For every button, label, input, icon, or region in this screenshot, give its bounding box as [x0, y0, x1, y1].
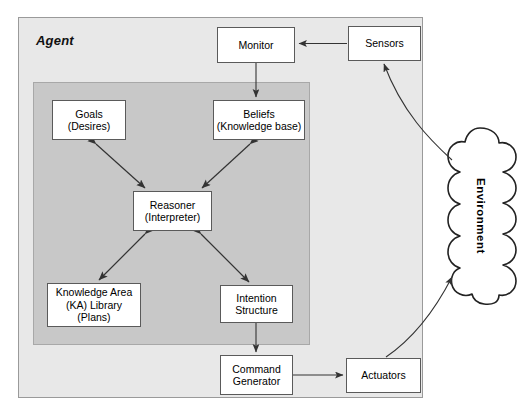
node-goals-line-0: Goals	[75, 108, 102, 121]
node-reasoner[interactable]: Reasoner (Interpreter)	[133, 191, 212, 231]
node-command-line-1: Generator	[233, 375, 280, 388]
node-monitor[interactable]: Monitor	[217, 27, 295, 63]
node-actuators-line-0: Actuators	[361, 369, 405, 382]
node-command-generator[interactable]: Command Generator	[220, 355, 293, 395]
node-beliefs-line-0: Beliefs	[243, 108, 275, 121]
node-monitor-line-0: Monitor	[238, 39, 273, 52]
environment-cloud	[440, 124, 520, 308]
node-ka-line-1: (KA) Library	[66, 299, 122, 312]
node-intention-line-0: Intention	[236, 292, 276, 305]
node-reasoner-line-1: (Interpreter)	[145, 211, 200, 224]
node-knowledge-area-library[interactable]: Knowledge Area (KA) Library (Plans)	[47, 283, 141, 327]
node-command-line-0: Command	[232, 363, 280, 376]
node-ka-line-2: (Plans)	[77, 311, 110, 324]
agent-title-label: Agent	[36, 33, 74, 48]
node-beliefs-line-1: (Knowledge base)	[217, 120, 302, 133]
node-beliefs[interactable]: Beliefs (Knowledge base)	[213, 100, 305, 140]
node-reasoner-line-0: Reasoner	[150, 199, 196, 212]
node-actuators[interactable]: Actuators	[346, 358, 421, 393]
node-sensors-line-0: Sensors	[365, 37, 404, 50]
node-ka-line-0: Knowledge Area	[56, 286, 132, 299]
node-intention-line-1: Structure	[235, 304, 278, 317]
node-goals[interactable]: Goals (Desires)	[52, 100, 126, 140]
node-intention-structure[interactable]: Intention Structure	[220, 285, 293, 323]
diagram-canvas: Agent Environment	[0, 0, 528, 419]
node-goals-line-1: (Desires)	[68, 120, 111, 133]
node-sensors[interactable]: Sensors	[348, 26, 421, 61]
